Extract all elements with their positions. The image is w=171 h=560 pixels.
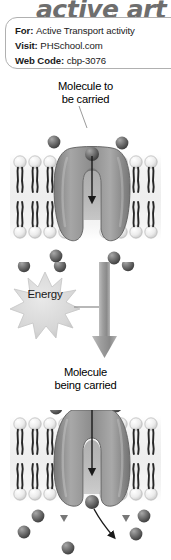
- free-molecule: [50, 410, 63, 414]
- energy-label: Energy: [13, 288, 77, 300]
- free-molecule: [138, 510, 151, 523]
- activity-info-card: For: Active Transport activity Visit: PH…: [5, 17, 171, 69]
- bottom-caption: Molecule being carried: [0, 366, 171, 391]
- free-molecule: [62, 542, 75, 555]
- membrane-diagram-after: [10, 410, 161, 560]
- membrane-diagram-before: [10, 128, 161, 266]
- info-row-label: For:: [15, 25, 33, 36]
- free-molecule: [18, 262, 30, 272]
- bottom-caption-line1: Molecule: [0, 366, 171, 379]
- info-row: For: Active Transport activity: [15, 26, 135, 36]
- membrane-svg-before: [10, 128, 161, 266]
- free-molecule: [18, 526, 31, 539]
- caption-leader-line: [78, 106, 88, 128]
- free-molecule: [50, 250, 63, 263]
- energy-svg: [0, 262, 171, 372]
- marker-triangle: [60, 515, 68, 522]
- free-molecule: [116, 137, 129, 150]
- top-caption-line2: be carried: [0, 93, 171, 106]
- big-down-arrow: [92, 262, 117, 358]
- info-row-value: cbp-3076: [67, 55, 106, 66]
- info-row: Visit: PHSchool.com: [15, 41, 103, 51]
- info-row: Web Code: cbp-3076: [15, 56, 106, 66]
- energy-starburst: [10, 272, 80, 339]
- free-molecule: [48, 136, 61, 149]
- release-arrow: [94, 509, 113, 536]
- top-caption: Molecule to be carried: [0, 80, 171, 105]
- info-row-label: Web Code:: [15, 55, 64, 66]
- energy-input-indicator: Energy: [0, 262, 171, 372]
- top-caption-line1: Molecule to: [0, 80, 171, 93]
- marker-triangle: [122, 515, 130, 522]
- info-row-label: Visit:: [15, 40, 38, 51]
- free-molecule: [54, 262, 66, 272]
- free-molecule: [32, 510, 45, 523]
- released-molecule: [85, 495, 99, 509]
- membrane-svg-after: [10, 410, 161, 560]
- info-row-value: PHSchool.com: [40, 40, 102, 51]
- free-molecule: [122, 262, 134, 271]
- free-molecule: [130, 528, 143, 541]
- info-row-value: Active Transport activity: [36, 25, 135, 36]
- bottom-caption-line2: being carried: [0, 379, 171, 392]
